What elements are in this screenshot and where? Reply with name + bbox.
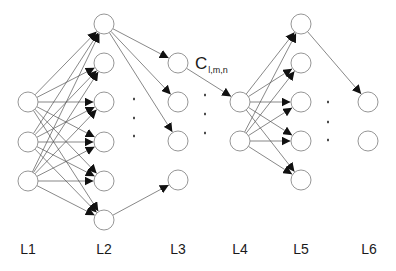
ellipsis-dot — [133, 135, 135, 137]
node-l2-3 — [94, 92, 114, 112]
ellipsis-dot — [133, 98, 135, 100]
layer-label-l2: L2 — [96, 241, 112, 257]
layer-label-l4: L4 — [232, 241, 248, 257]
ellipsis-dot — [133, 117, 135, 119]
ellipsis-dot — [204, 94, 206, 96]
node-l3-2 — [168, 92, 188, 112]
node-l1-2 — [18, 132, 38, 152]
node-l2-1 — [94, 14, 114, 34]
layer-label-l1: L1 — [20, 241, 36, 257]
ellipsis-dot — [204, 113, 206, 115]
layer-label-l3: L3 — [170, 241, 186, 257]
connection-label-subscript: l,m,n — [208, 65, 228, 75]
layer-label-l6: L6 — [361, 241, 377, 257]
node-l5-4 — [291, 131, 311, 151]
node-l2-6 — [94, 210, 114, 230]
ellipsis-dot — [327, 121, 329, 123]
edge-arrow — [246, 32, 294, 94]
edge-arrow — [109, 33, 172, 133]
node-l2-4 — [94, 132, 114, 152]
node-l1-3 — [18, 171, 38, 191]
node-l3-4 — [168, 170, 188, 190]
layer-label-l5: L5 — [293, 241, 309, 257]
edge-arrow — [33, 110, 98, 211]
node-l5-3 — [291, 92, 311, 112]
node-l3-1 — [168, 53, 188, 73]
edge-arrow — [37, 68, 95, 98]
node-l3-3 — [168, 131, 188, 151]
edge-arrow — [32, 34, 99, 173]
node-l5-5 — [291, 170, 311, 190]
ellipsis-dot — [204, 132, 206, 134]
node-l2-2 — [94, 53, 114, 73]
node-l6-1 — [358, 92, 378, 112]
edge-arrow — [35, 32, 97, 95]
node-l5-2 — [291, 53, 311, 73]
node-l5-1 — [291, 14, 311, 34]
edge-arrow — [37, 186, 95, 216]
ellipsis-dot — [327, 101, 329, 103]
edge-arrow — [113, 29, 169, 58]
node-l4-1 — [230, 92, 250, 112]
edge-arrow — [245, 33, 297, 132]
connection-label-base: C — [195, 54, 207, 73]
nodes-group — [18, 14, 378, 230]
edge-arrow — [111, 31, 171, 94]
node-l4-2 — [230, 131, 250, 151]
edge-arrow — [308, 32, 362, 94]
connection-label: Cl,m,n — [195, 54, 228, 75]
node-l6-2 — [358, 131, 378, 151]
node-l1-1 — [18, 92, 38, 112]
node-l2-5 — [94, 171, 114, 191]
ellipsis-dot — [327, 139, 329, 141]
edge-arrow — [113, 185, 169, 215]
neural-network-diagram — [0, 0, 396, 271]
